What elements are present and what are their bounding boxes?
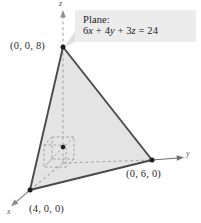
vertex-dot-x [28,188,33,193]
vertex-label-x-intercept: (4, 0, 0) [29,203,64,215]
eq-rhs: 24 [147,25,158,36]
x-axis-label: x [7,208,11,217]
y-axis-arrowhead [177,155,184,161]
eq-var-y: y [110,25,115,36]
vertex-dot-z [61,45,66,50]
y-axis-label: y [186,150,190,159]
z-axis-label: z [59,0,62,9]
x-axis-arrowline [16,190,30,202]
y-axis-arrowline [152,158,178,160]
eq-equals: = [139,25,145,36]
eq-op-1: + [96,25,102,36]
plane-callout: Plane: 6x + 4y + 3z = 24 [75,10,196,42]
eq-var-x: x [88,25,93,36]
callout-equation: 6x + 4y + 3z = 24 [83,25,196,36]
vertex-label-z-intercept: (0, 0, 8) [10,40,45,52]
vertex-label-y-intercept: (0, 6, 0) [126,168,161,180]
plane-figure: Plane: 6x + 4y + 3z = 24 (0, 0, 8) (0, 6… [0,0,201,223]
eq-var-z: z [132,25,136,36]
vertex-dot-y [150,158,155,163]
z-axis-arrowhead [60,10,66,18]
eq-op-2: + [117,25,123,36]
callout-title: Plane: [83,14,196,25]
reference-point-dot [61,145,66,150]
